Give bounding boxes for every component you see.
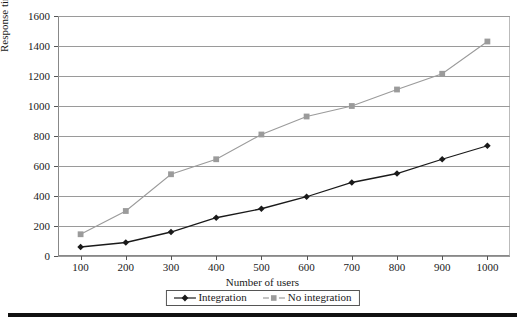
data-point: [258, 205, 265, 212]
data-point: [484, 142, 491, 149]
data-point: [77, 244, 84, 251]
y-tick-mark: [54, 256, 58, 257]
data-point: [213, 156, 219, 162]
legend-item-no-integration[interactable]: No integration: [263, 292, 352, 303]
x-tick-mark: [307, 256, 308, 260]
y-tick-label: 0: [6, 251, 50, 262]
y-tick-label: 600: [6, 161, 50, 172]
x-tick-label: 900: [434, 262, 451, 273]
x-tick-label: 500: [253, 262, 270, 273]
x-tick-mark: [352, 256, 353, 260]
bottom-divider: [8, 313, 517, 317]
data-point: [303, 193, 310, 200]
series-layer: [58, 16, 510, 256]
x-tick-label: 1000: [476, 262, 498, 273]
data-point: [304, 114, 310, 120]
x-axis-title: Number of users: [0, 276, 525, 288]
data-point: [394, 170, 401, 177]
x-tick-mark: [442, 256, 443, 260]
x-tick-mark: [261, 256, 262, 260]
y-tick-label: 200: [6, 221, 50, 232]
x-tick-label: 400: [208, 262, 225, 273]
chart-legend: Integration No integration: [165, 290, 359, 306]
data-point: [439, 156, 446, 163]
data-point: [259, 132, 265, 138]
y-tick-label: 1400: [6, 41, 50, 52]
integration-marker-icon: [173, 293, 195, 303]
data-point: [349, 103, 355, 109]
x-tick-mark: [216, 256, 217, 260]
chart-figure: 02004006008001000120014001600 Response t…: [0, 0, 525, 324]
y-tick-label: 1000: [6, 101, 50, 112]
y-tick-label: 1200: [6, 71, 50, 82]
x-tick-mark: [171, 256, 172, 260]
data-point: [168, 229, 175, 236]
series-no-integration: [78, 39, 491, 238]
y-tick-label: 400: [6, 191, 50, 202]
series-line: [81, 146, 488, 247]
data-point: [439, 71, 445, 77]
legend-label-no-integration: No integration: [288, 292, 352, 303]
series-integration: [77, 142, 490, 250]
data-point: [213, 214, 220, 221]
data-point: [168, 171, 174, 177]
data-point: [123, 239, 130, 246]
x-tick-label: 100: [72, 262, 89, 273]
x-tick-mark: [126, 256, 127, 260]
data-point: [123, 208, 129, 214]
data-point: [394, 87, 400, 93]
data-point: [349, 179, 356, 186]
x-tick-label: 600: [298, 262, 315, 273]
data-point: [485, 39, 491, 45]
x-tick-mark: [81, 256, 82, 260]
x-tick-label: 700: [344, 262, 361, 273]
x-tick-mark: [397, 256, 398, 260]
x-tick-label: 800: [389, 262, 406, 273]
y-axis-title: Response time (ms): [0, 0, 10, 52]
x-tick-mark: [487, 256, 488, 260]
x-tick-label: 300: [163, 262, 180, 273]
series-line: [81, 42, 488, 235]
legend-item-integration[interactable]: Integration: [173, 292, 246, 303]
y-tick-label: 1600: [6, 11, 50, 22]
legend-label-integration: Integration: [198, 292, 246, 303]
no-integration-marker-icon: [263, 293, 285, 303]
x-tick-label: 200: [118, 262, 135, 273]
y-tick-label: 800: [6, 131, 50, 142]
data-point: [78, 231, 84, 237]
